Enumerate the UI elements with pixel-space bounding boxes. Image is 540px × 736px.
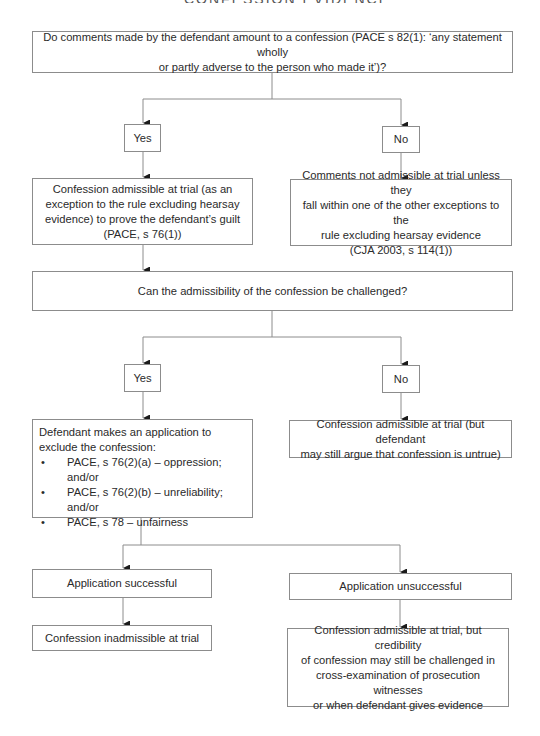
q2-yes-node: Yes (124, 364, 161, 392)
q2-yes-label: Yes (133, 371, 151, 386)
question-challenge: Can the admissibility of the confession … (32, 271, 513, 311)
admissible-untrue-text: Confession admissible at trial (but defe… (296, 417, 505, 462)
exclusion-application-node: Defendant makes an application to exclud… (32, 419, 253, 518)
confession-inadmissible-node: Confession inadmissible at trial (32, 625, 212, 651)
q2-no-label: No (394, 372, 408, 387)
ground-unfairness: PACE, s 78 – unfairness (39, 515, 246, 530)
credibility-challenge-node: Confession admissible at trial, but cred… (287, 628, 509, 707)
comments-not-admissible-text: Comments not admissible at trial unless … (297, 168, 505, 258)
admissible-untrue-node: Confession admissible at trial (but defe… (289, 420, 512, 458)
confession-admissible-node: Confession admissible at trial (as an ex… (32, 178, 253, 245)
ground-oppression: PACE, s 76(2)(a) – oppression; and/or (39, 455, 246, 485)
question-confession: Do comments made by the defendant amount… (32, 31, 513, 73)
ground-unreliability: PACE, s 76(2)(b) – unreliability; and/or (39, 485, 246, 515)
q2-no-node: No (382, 365, 420, 393)
q1-yes-label: Yes (133, 131, 151, 146)
q1-yes-node: Yes (124, 124, 161, 152)
application-unsuccessful-label: Application unsuccessful (339, 579, 462, 594)
application-unsuccessful-node: Application unsuccessful (289, 573, 512, 600)
application-successful-node: Application successful (32, 569, 212, 598)
question-challenge-text: Can the admissibility of the confession … (138, 284, 407, 299)
question-confession-text: Do comments made by the defendant amount… (39, 30, 506, 75)
confession-admissible-text: Confession admissible at trial (as an ex… (45, 182, 240, 242)
application-successful-label: Application successful (67, 576, 177, 591)
q1-no-label: No (394, 132, 408, 147)
credibility-challenge-text: Confession admissible at trial, but cred… (294, 623, 502, 713)
q1-no-node: No (382, 126, 420, 153)
exclusion-application-intro: Defendant makes an application to exclud… (39, 425, 246, 455)
confession-inadmissible-text: Confession inadmissible at trial (45, 631, 199, 646)
comments-not-admissible-node: Comments not admissible at trial unless … (290, 179, 512, 246)
exclusion-grounds-list: PACE, s 76(2)(a) – oppression; and/or PA… (39, 455, 246, 530)
